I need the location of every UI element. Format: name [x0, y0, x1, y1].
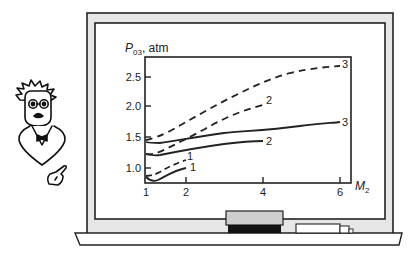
y-tick-2-0: 2.0 — [126, 100, 141, 112]
x-tick-1: 1 — [143, 186, 149, 198]
x-tick-2: 2 — [183, 186, 189, 198]
x-tick-6: 6 — [337, 186, 343, 198]
y-tick-2-5: 2.5 — [126, 71, 141, 83]
y-axis-label: P03, atm — [125, 41, 169, 57]
professor-icon — [16, 80, 66, 185]
curve-label-1-dashed: 1 — [187, 150, 193, 162]
y-tick-1-5: 1.5 — [126, 131, 141, 143]
x-tick-4: 4 — [260, 186, 266, 198]
chalk-tray — [75, 233, 402, 245]
curve-label-1-solid: 1 — [190, 161, 196, 173]
chalkboard-scene: 2.5 2.0 1.5 1.0 1 2 4 6 P03, atm M2 — [0, 0, 412, 258]
curve-label-2-solid: 2 — [266, 135, 272, 147]
curve-label-3-dashed: 3 — [342, 58, 348, 70]
curve-label-2-dashed: 2 — [266, 94, 272, 106]
curve-label-3-solid: 3 — [342, 116, 348, 128]
eraser-icon — [226, 211, 283, 233]
y-tick-1-0: 1.0 — [126, 162, 141, 174]
